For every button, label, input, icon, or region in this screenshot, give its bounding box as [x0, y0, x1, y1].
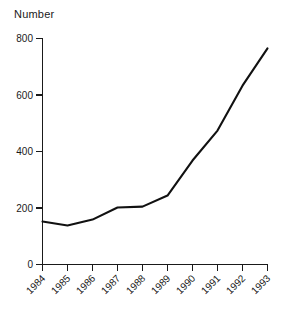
y-axis-ticks: [36, 39, 43, 265]
x-tick-label-1989: 1989: [149, 272, 173, 296]
x-axis-tick-labels: 1984 1985 1986 1987 1988 1989 1990 1991 …: [24, 272, 273, 296]
x-tick-label-1992: 1992: [224, 272, 248, 296]
y-tick-label-0: 0: [27, 259, 33, 270]
x-tick-label-1987: 1987: [99, 272, 123, 296]
y-tick-label-400: 400: [16, 146, 33, 157]
y-tick-label-800: 800: [16, 33, 33, 44]
x-axis-ticks: [43, 265, 268, 272]
chart-plot-area: 800 600 400 200 0 1984 1985 1986 1987 19…: [0, 0, 289, 319]
y-tick-label-600: 600: [16, 90, 33, 101]
x-tick-label-1990: 1990: [174, 272, 198, 296]
data-series-line: [43, 48, 268, 225]
x-tick-label-1991: 1991: [199, 272, 223, 296]
y-axis-tick-labels: 800 600 400 200 0: [16, 33, 33, 270]
x-tick-label-1984: 1984: [24, 272, 48, 296]
x-tick-label-1988: 1988: [124, 272, 148, 296]
x-tick-label-1986: 1986: [74, 272, 98, 296]
line-chart: Number 800 600 400 200 0: [0, 0, 289, 319]
y-tick-label-200: 200: [16, 203, 33, 214]
x-tick-label-1985: 1985: [49, 272, 73, 296]
x-tick-label-1993: 1993: [249, 272, 273, 296]
